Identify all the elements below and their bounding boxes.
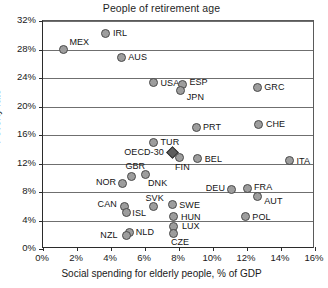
data-point-label-aut: AUT — [264, 196, 282, 206]
x-tick-label: 14% — [265, 252, 295, 263]
data-point-prt[interactable] — [192, 123, 201, 132]
data-point-label-che: CHE — [266, 119, 285, 129]
data-point-label-lux: LUX — [182, 221, 200, 231]
y-tick — [39, 50, 43, 51]
data-point-aut[interactable] — [253, 192, 262, 201]
y-tick — [39, 107, 43, 108]
y-tick — [39, 221, 43, 222]
x-tick-label: 2% — [61, 252, 91, 263]
gridline — [43, 107, 313, 108]
data-point-label-isl: ISL — [132, 208, 146, 218]
data-point-usa[interactable] — [149, 78, 158, 87]
y-tick-label: 4% — [0, 214, 36, 225]
y-tick — [39, 135, 43, 136]
y-tick — [39, 78, 43, 79]
x-tick — [145, 247, 146, 251]
data-point-label-nor: NOR — [96, 177, 116, 187]
data-point-nzl[interactable] — [122, 231, 131, 240]
x-tick-label: 8% — [163, 252, 193, 263]
data-point-hun[interactable] — [169, 212, 178, 221]
data-point-label-tur: TUR — [161, 137, 180, 147]
data-point-mex[interactable] — [59, 45, 68, 54]
x-tick — [247, 247, 248, 251]
data-point-label-nld: NLD — [136, 227, 154, 237]
data-point-label-prt: PRT — [203, 122, 221, 132]
x-tick-label: 10% — [197, 252, 227, 263]
data-point-aus[interactable] — [117, 53, 126, 62]
data-point-pol[interactable] — [241, 212, 250, 221]
x-tick — [77, 247, 78, 251]
data-point-swe[interactable] — [168, 200, 177, 209]
data-point-label-jpn: JPN — [187, 92, 204, 102]
data-point-label-mex: MEX — [69, 37, 89, 47]
x-tick — [315, 247, 316, 251]
x-tick-label: 4% — [95, 252, 125, 263]
data-point-label-nzl: NZL — [100, 230, 117, 240]
data-point-label-fin: FIN — [175, 162, 190, 172]
data-point-irl[interactable] — [101, 29, 110, 38]
data-point-label-cze: CZE — [171, 237, 189, 247]
data-point-gbr[interactable] — [127, 172, 136, 181]
data-point-che[interactable] — [254, 120, 263, 129]
chart-title: People of retirement age — [0, 2, 323, 14]
data-point-label-irl: IRL — [113, 28, 127, 38]
x-tick — [179, 247, 180, 251]
plot-area: MEXIRLAUSUSAESPJPNGRCPRTCHETUROECD-30FIN… — [42, 20, 314, 248]
x-tick-label: 12% — [231, 252, 261, 263]
y-tick-label: 24% — [0, 71, 36, 82]
data-point-label-grc: GRC — [264, 82, 284, 92]
data-point-label-bel: BEL — [205, 154, 222, 164]
data-point-label-esp: ESP — [189, 77, 207, 87]
y-tick-label: 28% — [0, 43, 36, 54]
x-tick-label: 0% — [27, 252, 57, 263]
data-point-bel[interactable] — [193, 154, 202, 163]
data-point-jpn[interactable] — [176, 86, 185, 95]
data-point-nor[interactable] — [118, 179, 127, 188]
data-point-label-oecd-30: OECD-30 — [124, 147, 164, 157]
x-tick-label: 16% — [299, 252, 328, 263]
y-tick-label: 32% — [0, 14, 36, 25]
data-point-grc[interactable] — [253, 83, 262, 92]
data-point-isl[interactable] — [122, 208, 131, 217]
x-axis-title: Social spending for elderly people, % of… — [0, 268, 323, 279]
data-point-fra[interactable] — [243, 184, 252, 193]
gridline — [43, 221, 313, 222]
gridline — [43, 21, 313, 22]
y-tick-label: 12% — [0, 157, 36, 168]
data-point-label-ita: ITA — [297, 156, 311, 166]
y-tick-label: 16% — [0, 128, 36, 139]
x-tick-label: 6% — [129, 252, 159, 263]
y-tick-label: 8% — [0, 185, 36, 196]
data-point-label-can: CAN — [98, 199, 117, 209]
x-tick — [281, 247, 282, 251]
data-point-label-dnk: DNK — [148, 178, 167, 188]
data-point-svk[interactable] — [149, 202, 158, 211]
data-point-label-swe: SWE — [179, 200, 200, 210]
gridline — [43, 135, 313, 136]
data-point-label-aus: AUS — [128, 52, 147, 62]
data-point-deu[interactable] — [227, 185, 236, 194]
y-tick — [39, 21, 43, 22]
y-tick-label: 20% — [0, 100, 36, 111]
data-point-label-pol: POL — [252, 212, 270, 222]
gridline — [43, 192, 313, 193]
data-point-tur[interactable] — [149, 138, 158, 147]
x-tick — [43, 247, 44, 251]
y-tick — [39, 192, 43, 193]
data-point-label-deu: DEU — [206, 183, 225, 193]
data-point-label-svk: SVK — [146, 193, 164, 203]
gridline — [43, 50, 313, 51]
y-tick — [39, 164, 43, 165]
x-tick — [213, 247, 214, 251]
data-point-label-fra: FRA — [254, 182, 272, 192]
x-tick — [111, 247, 112, 251]
